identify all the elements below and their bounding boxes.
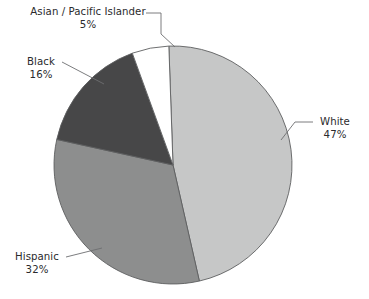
pie-label-asian-pacific-islander-name: Asian / Pacific Islander bbox=[30, 6, 145, 17]
leader-line-asian-pacific-islander bbox=[146, 13, 175, 47]
pie-slices bbox=[54, 46, 292, 284]
pie-label-hispanic-percent: 32% bbox=[6, 264, 68, 277]
pie-label-asian-pacific-islander-percent: 5% bbox=[26, 19, 150, 32]
pie-label-black-percent: 16% bbox=[17, 69, 65, 82]
pie-label-hispanic-name: Hispanic bbox=[15, 251, 59, 262]
pie-label-black-name: Black bbox=[27, 56, 55, 67]
pie-label-asian-pacific-islander: Asian / Pacific Islander 5% bbox=[26, 6, 150, 31]
pie-label-white-name: White bbox=[320, 116, 350, 127]
pie-label-black: Black 16% bbox=[17, 56, 65, 81]
pie-chart-figure: Asian / Pacific Islander 5% Black 16% Hi… bbox=[0, 0, 369, 299]
pie-label-white: White 47% bbox=[313, 116, 357, 141]
pie-label-white-percent: 47% bbox=[313, 129, 357, 142]
pie-label-hispanic: Hispanic 32% bbox=[6, 251, 68, 276]
